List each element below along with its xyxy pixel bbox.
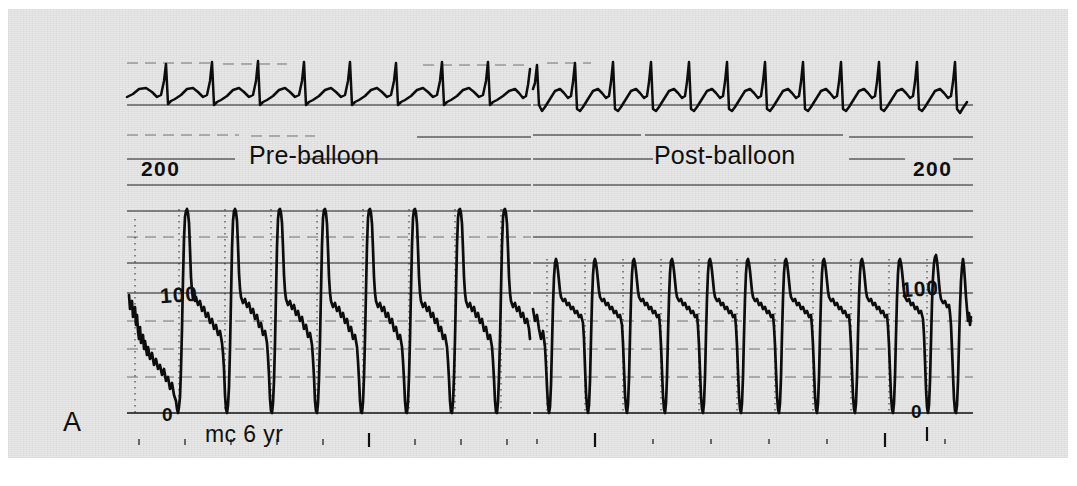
- time-markers-post: [537, 427, 945, 447]
- panel-letter: A: [63, 407, 82, 438]
- scale-label-200-post: 200: [913, 157, 952, 181]
- time-markers-pre: [139, 433, 507, 447]
- scale-label-0-post: 0: [911, 401, 922, 423]
- label-post-balloon: Post-balloon: [654, 141, 795, 170]
- ecg-waveform-pre: [127, 61, 530, 105]
- label-pre-balloon: Pre-balloon: [249, 141, 379, 170]
- patient-label: mc 6 yr: [205, 421, 283, 448]
- figure-root: Pre-balloon Post-balloon 200 200 100 100…: [0, 0, 1077, 486]
- scale-label-0-pre: 0: [162, 404, 173, 426]
- post-balloon-trace-svg: [533, 9, 973, 458]
- panel-pre-balloon: [127, 9, 531, 458]
- scale-label-100-post: 100: [900, 276, 940, 303]
- scale-label-100-pre: 100: [159, 282, 199, 309]
- pre-balloon-trace-svg: [127, 9, 531, 458]
- chart-paper-photo: Pre-balloon Post-balloon 200 200 100 100…: [8, 9, 1068, 458]
- lv-pressure-waveform-pre: [129, 209, 530, 413]
- scale-label-200-pre: 200: [141, 157, 180, 181]
- panel-post-balloon: [533, 9, 973, 458]
